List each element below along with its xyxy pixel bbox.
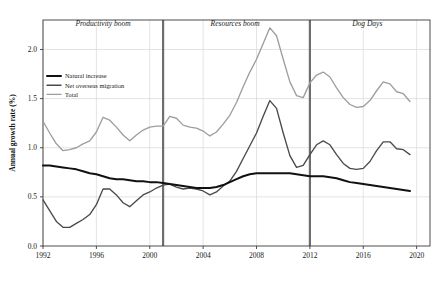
x-tick-label: 2012 bbox=[302, 251, 317, 260]
x-tick-label: 1996 bbox=[89, 251, 104, 260]
y-axis-title: Annual growth rate (%) bbox=[8, 94, 17, 172]
chart-container: 0.00.51.01.52.0 199219962000200420082012… bbox=[0, 0, 444, 281]
plot-frame bbox=[43, 20, 430, 246]
y-axis-tick-labels: 0.00.51.01.52.0 bbox=[28, 45, 38, 251]
y-tick-label: 0.0 bbox=[28, 242, 38, 251]
series-line bbox=[43, 28, 410, 151]
x-tick-label: 2020 bbox=[409, 251, 424, 260]
gridlines bbox=[43, 20, 430, 246]
y-tick-label: 0.5 bbox=[28, 192, 38, 201]
era-annotation-label: Productivity boom bbox=[74, 19, 131, 28]
era-annotation-label: Dog Days bbox=[351, 19, 382, 28]
data-series bbox=[43, 28, 410, 227]
legend-item-label: Natural increase bbox=[65, 72, 107, 79]
x-tick-label: 1992 bbox=[36, 251, 51, 260]
x-tick-label: 2008 bbox=[249, 251, 264, 260]
era-annotation-label: Resources boom bbox=[210, 19, 261, 28]
chart-legend: Natural increaseNet overseas migrationTo… bbox=[47, 72, 125, 97]
line-chart: 0.00.51.01.52.0 199219962000200420082012… bbox=[0, 0, 444, 281]
legend-item-label: Net overseas migration bbox=[65, 82, 125, 89]
y-tick-label: 2.0 bbox=[28, 45, 38, 54]
x-axis-tick-labels: 19921996200020042008201220162020 bbox=[36, 251, 425, 260]
y-tick-label: 1.5 bbox=[28, 94, 38, 103]
x-tick-label: 2016 bbox=[356, 251, 371, 260]
svg-text:Annual growth rate (%): Annual growth rate (%) bbox=[8, 94, 17, 172]
y-tick-label: 1.0 bbox=[28, 143, 38, 152]
x-tick-label: 2000 bbox=[142, 251, 157, 260]
era-dividers bbox=[163, 20, 310, 246]
legend-item-label: Total bbox=[65, 91, 78, 98]
x-tick-label: 2004 bbox=[196, 251, 211, 260]
